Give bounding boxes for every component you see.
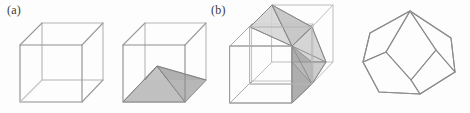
figure-cube-with-pyramid (110, 0, 220, 113)
lower-left-rhombus (363, 52, 420, 94)
cube-a-front-face (230, 46, 292, 103)
shared-rhombic-region (250, 5, 326, 103)
left-upper-rhombus (363, 11, 410, 62)
inscribed-pyramid (123, 66, 206, 102)
pyramid-base (123, 80, 206, 102)
figure-cube-empty (0, 0, 112, 113)
lower-right-rhombus (411, 50, 455, 94)
rhombic-dodecahedron-edges (363, 11, 455, 94)
cube-edges (20, 23, 103, 102)
central-rhombus (386, 11, 436, 80)
figure-two-offset-cubes (222, 0, 348, 113)
figure-container: (a) (0, 0, 470, 113)
figure-rhombic-dodecahedron (348, 0, 470, 113)
right-upper-rhombus (410, 11, 455, 72)
